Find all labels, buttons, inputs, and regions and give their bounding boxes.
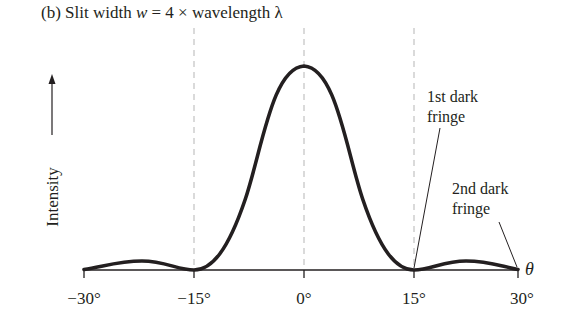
- second-dark-fringe-label-line1: 2nd dark: [452, 180, 508, 197]
- second-dark-fringe-pointer: [499, 222, 517, 267]
- xtick-15: 15°: [402, 289, 426, 308]
- xtick-minus-30: −30°: [67, 289, 100, 308]
- first-dark-fringe-pointer: [414, 128, 440, 268]
- diffraction-plot: Intensity −30° −15° 0° 15° 30° θ 1st dar…: [0, 0, 565, 310]
- second-dark-fringe-label-line2: fringe: [452, 200, 490, 218]
- xtick-minus-15: −15°: [177, 289, 210, 308]
- intensity-arrow: [49, 74, 56, 135]
- xtick-0: 0°: [296, 289, 311, 308]
- dashed-guides: [194, 28, 414, 268]
- first-dark-fringe-label-line1: 1st dark: [427, 88, 478, 105]
- x-ticks: [84, 270, 518, 278]
- y-axis-label: Intensity: [43, 167, 62, 227]
- x-axis-variable: θ: [525, 259, 534, 279]
- xtick-30: 30°: [510, 289, 534, 308]
- arrow-head-icon: [49, 74, 56, 84]
- first-dark-fringe-label-line2: fringe: [427, 108, 465, 126]
